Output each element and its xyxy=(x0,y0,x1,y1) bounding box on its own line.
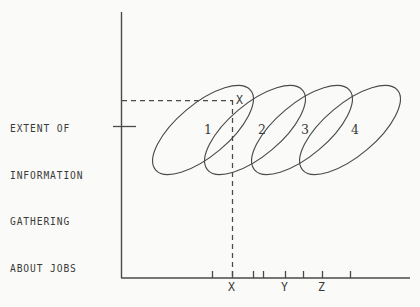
x-tick-label-x: X xyxy=(228,280,235,294)
y-axis-caption-line-3: GATHERING xyxy=(10,214,114,230)
ellipse-label-1: 1 xyxy=(204,122,212,137)
ellipse-label-3: 3 xyxy=(301,122,309,137)
y-axis-caption-line-4: ABOUT JOBS xyxy=(10,261,114,277)
ellipse-label-2: 2 xyxy=(258,122,266,137)
y-axis-caption-line-2: INFORMATION xyxy=(10,168,114,184)
y-axis-caption-line-1: EXTENT OF xyxy=(10,121,114,137)
reference-point-label-x: X xyxy=(236,93,243,107)
x-tick-label-y: Y xyxy=(281,280,288,294)
x-tick-label-z: Z xyxy=(318,280,325,294)
ellipse-1 xyxy=(139,70,267,190)
ellipse-group xyxy=(139,70,414,190)
y-axis-caption: EXTENT OF INFORMATION GATHERING ABOUT JO… xyxy=(10,90,114,307)
ellipse-label-4: 4 xyxy=(351,122,359,137)
figure-canvas: 1 2 3 4 X X Y Z EXTENT OF INFORMATION GA… xyxy=(0,0,420,307)
x-axis-ticks xyxy=(213,271,351,278)
